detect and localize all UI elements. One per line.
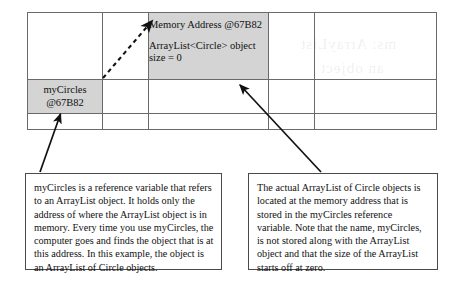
table-cell-empty [269,13,315,80]
callout-left-explanation: myCircles is a reference variable that r… [25,173,222,270]
mycircles-variable-text: myCircles @67B82 [28,84,102,108]
table-cell-empty [315,13,436,80]
table-cell-arraylist-object: Memory Address @67B82 ArrayList<Circle> … [149,13,269,80]
table-cell-empty [28,13,103,80]
table-cell-empty [149,80,269,114]
table-cell-empty [28,114,103,130]
table-cell-empty [103,114,149,130]
memory-table: Memory Address @67B82 ArrayList<Circle> … [27,12,437,130]
table-cell-mycircles-variable: myCircles @67B82 [28,80,103,114]
callout-right-explanation: The actual ArrayList of Circle objects i… [248,173,438,270]
table-cell-empty [269,114,315,130]
table-cell-empty [315,114,436,130]
table-cell-empty [103,13,149,80]
table-cell-empty [315,80,436,114]
table-cell-empty [269,80,315,114]
arraylist-object-body: ArrayList<Circle> object size = 0 [149,40,268,64]
arraylist-object-address: Memory Address @67B82 [149,19,268,31]
table-cell-empty [149,114,269,130]
diagram-canvas: ms: ArrayList an object Memory Address @… [0,0,466,292]
table-cell-empty [103,80,149,114]
